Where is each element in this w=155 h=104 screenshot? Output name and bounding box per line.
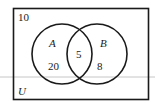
set-a-only-value: 20 xyxy=(48,61,59,72)
set-b-only-value: 8 xyxy=(97,61,103,72)
intersection-value: 5 xyxy=(76,49,82,60)
universe-label: U xyxy=(18,86,26,97)
outside-value: 10 xyxy=(18,12,29,23)
set-a-label: A xyxy=(49,38,56,49)
set-b-label: B xyxy=(100,38,107,49)
set-a-circle xyxy=(32,24,92,84)
